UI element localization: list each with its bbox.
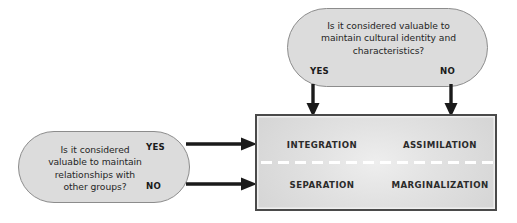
top-question-text: Is it considered valuable to maintain cu… xyxy=(298,20,479,57)
acculturation-matrix: INTEGRATION ASSIMILATION SEPARATION MARG… xyxy=(255,114,497,211)
top-question-box: Is it considered valuable to maintain cu… xyxy=(287,8,488,87)
matrix-cell-assimilation: ASSIMILATION xyxy=(385,140,495,150)
matrix-cell-integration: INTEGRATION xyxy=(267,140,377,150)
matrix-horizontal-divider xyxy=(261,161,495,164)
matrix-cell-marginalization: MARGINALIZATION xyxy=(385,180,495,190)
arrow-down-from-yes-icon xyxy=(305,84,321,118)
arrow-right-from-no-icon xyxy=(186,176,258,192)
left-question-box: Is it considered valuable to maintain re… xyxy=(18,131,190,203)
top-question-yes-label: YES xyxy=(310,66,329,76)
left-question-yes-label: YES xyxy=(146,142,165,152)
arrow-right-from-yes-icon xyxy=(186,136,258,152)
arrow-down-from-no-icon xyxy=(443,84,459,118)
matrix-cell-separation: SEPARATION xyxy=(267,180,377,190)
top-question-no-label: NO xyxy=(440,66,455,76)
left-question-text: Is it considered valuable to maintain re… xyxy=(33,144,157,194)
acculturation-diagram: Is it considered valuable to maintain cu… xyxy=(0,0,517,223)
left-question-no-label: NO xyxy=(146,181,161,191)
